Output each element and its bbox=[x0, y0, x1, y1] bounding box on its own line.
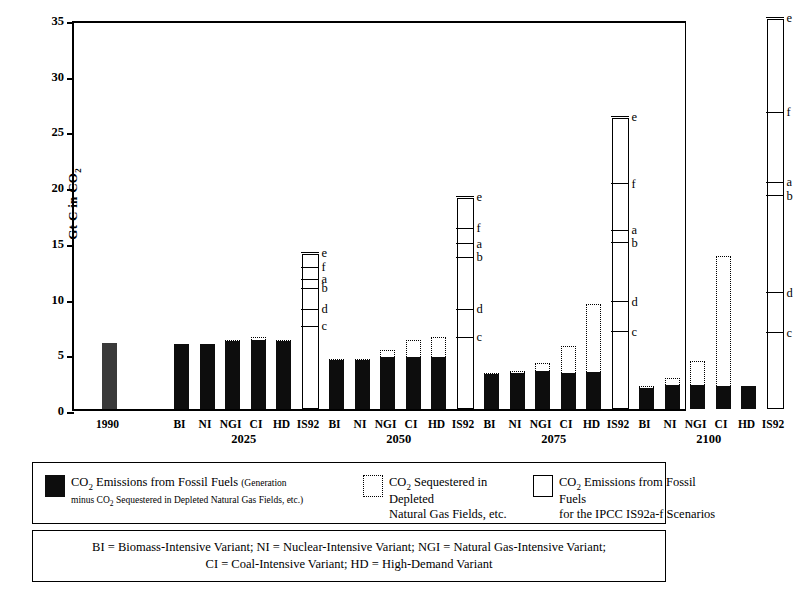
is92-marker-a bbox=[766, 182, 784, 183]
is92-marker-label-b: b bbox=[632, 237, 638, 250]
chart-plot-region: Gt C in CO2 05101520253035 cdbafecdbafec… bbox=[0, 0, 698, 440]
bar-2100-HD bbox=[741, 386, 756, 409]
y-axis-tick-mark bbox=[67, 22, 74, 24]
is92-marker-label-b: b bbox=[787, 190, 793, 203]
is92-marker-e bbox=[611, 116, 629, 117]
bar-2050-BI bbox=[329, 359, 344, 409]
is92-marker-b bbox=[611, 242, 629, 243]
bar-segment-emissions bbox=[355, 360, 370, 409]
is92-marker-c bbox=[301, 326, 319, 327]
is92-range-box-2025: cdbafe bbox=[302, 254, 319, 409]
legend-co2-3: CO bbox=[559, 475, 576, 489]
legend-emissions-l2b: Sequestered in Depleted Natural Gas Fiel… bbox=[114, 495, 304, 505]
legend-box-variants: BI = Biomass-Intensive Variant; NI = Nuc… bbox=[32, 530, 666, 582]
x-axis-labels: 1990BININGICIHDIS922025BININGICIHDIS9220… bbox=[0, 414, 698, 460]
is92-range-box-2075: cdbafe bbox=[612, 118, 629, 409]
is92-marker-label-b: b bbox=[477, 251, 483, 264]
is92-marker-d bbox=[766, 292, 784, 293]
bar-segment-sequestered bbox=[380, 350, 395, 357]
is92-marker-f bbox=[456, 228, 474, 229]
is92-marker-label-e: e bbox=[477, 191, 483, 204]
is92-marker-label-e: e bbox=[787, 12, 793, 25]
bar-segment-emissions bbox=[716, 386, 731, 409]
bar-segment-sequestered bbox=[586, 304, 601, 372]
bar-segment-emissions bbox=[484, 374, 499, 409]
bar-2100-NI bbox=[665, 378, 680, 409]
bar-segment-emissions bbox=[665, 385, 680, 410]
x-axis-group-label-2025: 2025 bbox=[214, 432, 274, 447]
bar-segment-emissions bbox=[535, 371, 550, 409]
bar-segment-emissions bbox=[251, 340, 266, 409]
bar-segment-emissions bbox=[406, 357, 421, 409]
legend-emissions-rest: Emissions from Fossil Fuels bbox=[93, 475, 241, 489]
bar-segment-emissions bbox=[329, 360, 344, 409]
y-axis-tick-mark bbox=[67, 78, 74, 80]
is92-marker-label-c: c bbox=[787, 327, 793, 340]
bar-segment-sequestered bbox=[355, 359, 370, 360]
bar-2050-HD bbox=[431, 337, 446, 409]
is92-marker-label-e: e bbox=[632, 111, 638, 124]
legend-seq-line2: Natural Gas Fields, etc. bbox=[389, 507, 507, 521]
variant-line-1: BI = Biomass-Intensive Variant; NI = Nuc… bbox=[92, 540, 606, 554]
is92-marker-b bbox=[456, 257, 474, 258]
bar-2050-NGI bbox=[380, 350, 395, 409]
y-axis-tick-mark bbox=[67, 189, 74, 191]
bar-segment-emissions bbox=[102, 343, 117, 409]
legend-item-sequestered-text: CO2 Sequestered in Depleted Natural Gas … bbox=[389, 475, 528, 522]
bar-segment-sequestered bbox=[406, 340, 421, 357]
is92-marker-label-d: d bbox=[632, 296, 638, 309]
bar-2025-BI bbox=[174, 344, 189, 409]
legend-item-is92: CO2 Emissions from Fossil Fuels for the … bbox=[533, 475, 723, 522]
variant-line-2: CI = Coal-Intensive Variant; HD = High-D… bbox=[206, 557, 493, 571]
plot-area: 05101520253035 cdbafecdbafecdbafecdbafe bbox=[72, 21, 686, 411]
bar-segment-sequestered bbox=[639, 386, 654, 388]
is92-marker-e bbox=[456, 196, 474, 197]
bar-2025-CI bbox=[251, 337, 266, 409]
is92-marker-b bbox=[766, 195, 784, 196]
y-axis-tick-label: 5 bbox=[38, 348, 64, 363]
is92-marker-a bbox=[456, 243, 474, 244]
bar-2075-BI bbox=[484, 373, 499, 409]
bar-segment-emissions bbox=[200, 344, 215, 409]
bar-segment-sequestered bbox=[690, 361, 705, 384]
is92-marker-c bbox=[766, 332, 784, 333]
legend-item-emissions-text: CO2 Emissions from Fossil Fuels (Generat… bbox=[71, 475, 303, 509]
bar-segment-emissions bbox=[510, 373, 525, 409]
bar-2025-NI bbox=[200, 344, 215, 409]
bar-segment-sequestered bbox=[484, 373, 499, 374]
is92-marker-d bbox=[456, 309, 474, 310]
is92-marker-a bbox=[611, 230, 629, 231]
bar-segment-emissions bbox=[561, 373, 576, 409]
dotted-open-box-icon bbox=[363, 475, 383, 497]
bar-segment-sequestered bbox=[329, 359, 344, 360]
y-axis-tick-label: 15 bbox=[38, 237, 64, 252]
bar-2100-CI bbox=[716, 256, 731, 409]
y-axis-tick-label: 35 bbox=[38, 14, 64, 29]
y-axis-tick-mark bbox=[67, 356, 74, 358]
bar-segment-emissions bbox=[380, 357, 395, 409]
is92-marker-f bbox=[766, 112, 784, 113]
bar-2100-NGI bbox=[690, 361, 705, 409]
bar-2025-NGI bbox=[225, 340, 240, 409]
is92-marker-label-f: f bbox=[632, 178, 636, 191]
bar-1990-1990 bbox=[102, 343, 117, 409]
bar-2100-BI bbox=[639, 386, 654, 409]
x-axis-group-label-2100: 2100 bbox=[679, 432, 739, 447]
is92-marker-label-e: e bbox=[322, 247, 328, 260]
is92-marker-e bbox=[301, 252, 319, 253]
legend-is92-line2: for the IPCC IS92a-f Scenarios bbox=[559, 507, 715, 521]
is92-marker-label-d: d bbox=[322, 303, 328, 316]
is92-marker-label-d: d bbox=[787, 287, 793, 300]
bar-segment-emissions bbox=[276, 341, 291, 409]
x-axis-label-1990-1990: 1990 bbox=[92, 418, 124, 430]
is92-marker-f bbox=[301, 267, 319, 268]
bar-segment-sequestered bbox=[535, 363, 550, 371]
is92-marker-c bbox=[611, 331, 629, 332]
bar-segment-sequestered bbox=[251, 337, 266, 340]
y-axis-tick-label: 25 bbox=[38, 125, 64, 140]
is92-range-box-2100: cdbafe bbox=[767, 19, 784, 409]
y-axis-tick-mark bbox=[67, 301, 74, 303]
bar-segment-sequestered bbox=[716, 256, 731, 385]
is92-marker-d bbox=[301, 309, 319, 310]
